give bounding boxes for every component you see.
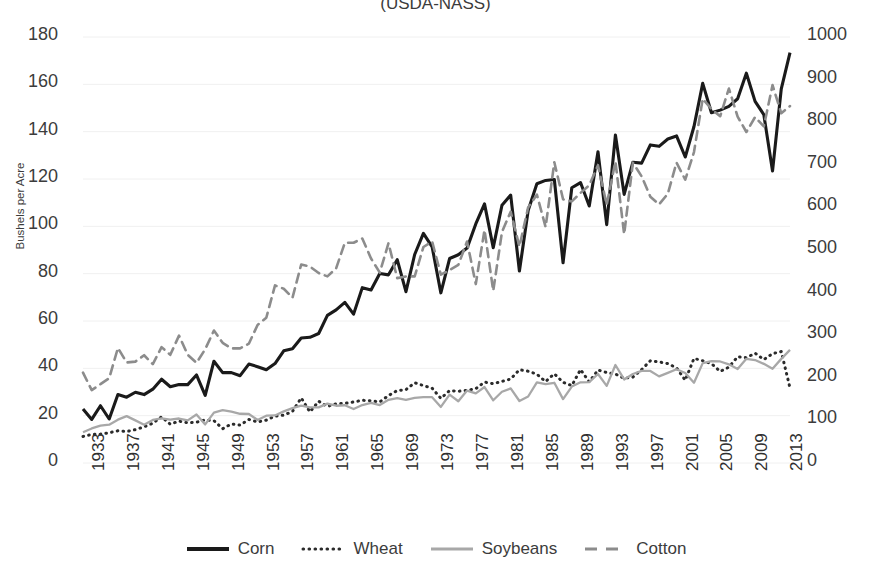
legend-label: Corn — [238, 539, 275, 559]
x-axis-tick: 1949 — [230, 433, 247, 471]
y-axis-left-tick: 60 — [0, 309, 58, 327]
x-axis-tick: 1989 — [579, 433, 596, 471]
y-axis-left-tick: 160 — [0, 72, 58, 90]
y-axis-right-tick: 400 — [807, 281, 867, 299]
x-axis-tick: 1961 — [334, 433, 351, 471]
x-axis-tick: 1933 — [90, 433, 107, 471]
x-axis-tick: 1993 — [614, 433, 631, 471]
legend-swatch-corn-icon — [185, 542, 231, 556]
y-axis-right-tick: 1000 — [807, 25, 867, 43]
series-line-soybeans — [83, 350, 790, 432]
x-axis-tick: 1973 — [439, 433, 456, 471]
x-axis-tick: 1969 — [404, 433, 421, 471]
x-axis-tick: 1941 — [160, 433, 177, 471]
y-axis-right-tick: 300 — [807, 323, 867, 341]
y-axis-left-label: Bushels per Acre — [14, 146, 26, 266]
legend-label: Wheat — [354, 539, 403, 559]
x-axis-tick: 1977 — [474, 433, 491, 471]
legend-item-soybeans[interactable]: Soybeans — [429, 539, 558, 559]
legend-swatch-wheat-icon — [301, 542, 347, 556]
y-axis-left-tick: 100 — [0, 214, 58, 232]
x-axis-tick: 2005 — [718, 433, 735, 471]
y-axis-right-tick: 200 — [807, 366, 867, 384]
x-axis-tick: 2013 — [788, 433, 805, 471]
x-axis-tick: 1957 — [299, 433, 316, 471]
chart-legend: CornWheatSoybeansCotton — [0, 539, 871, 559]
legend-label: Cotton — [636, 539, 686, 559]
x-axis-tick: 1937 — [125, 433, 142, 471]
y-axis-left-tick: 40 — [0, 356, 58, 374]
series-line-wheat — [83, 352, 790, 437]
x-axis-tick: 1965 — [369, 433, 386, 471]
y-axis-left-tick: 20 — [0, 404, 58, 422]
y-axis-left-tick: 180 — [0, 25, 58, 43]
x-axis-tick: 2001 — [684, 433, 701, 471]
x-axis-tick: 1981 — [509, 433, 526, 471]
chart-root: (USDA-NASS) Bushels per Acre 18016014012… — [0, 0, 871, 574]
y-axis-right-tick: 700 — [807, 153, 867, 171]
legend-label: Soybeans — [482, 539, 558, 559]
legend-item-corn[interactable]: Corn — [185, 539, 275, 559]
y-axis-left-tick: 120 — [0, 167, 58, 185]
chart-title: (USDA-NASS) — [0, 0, 871, 16]
legend-swatch-cotton-icon — [583, 542, 629, 556]
y-axis-right-tick: 0 — [807, 451, 867, 469]
x-axis-tick: 1953 — [265, 433, 282, 471]
y-axis-left-tick: 140 — [0, 120, 58, 138]
legend-item-wheat[interactable]: Wheat — [301, 539, 403, 559]
y-axis-right-tick: 500 — [807, 238, 867, 256]
series-line-corn — [83, 53, 790, 420]
y-axis-right-tick: 800 — [807, 110, 867, 128]
x-axis-tick: 1985 — [544, 433, 561, 471]
y-axis-right-tick: 900 — [807, 68, 867, 86]
x-axis-tick: 2009 — [753, 433, 770, 471]
legend-swatch-soybeans-icon — [429, 542, 475, 556]
y-axis-right-tick: 100 — [807, 408, 867, 426]
plot-area — [0, 0, 871, 574]
y-axis-left-tick: 80 — [0, 262, 58, 280]
y-axis-right-tick: 600 — [807, 195, 867, 213]
y-axis-left-tick: 0 — [0, 451, 58, 469]
x-axis-tick: 1997 — [649, 433, 666, 471]
x-axis-tick: 1945 — [195, 433, 212, 471]
legend-item-cotton[interactable]: Cotton — [583, 539, 686, 559]
series-line-cotton — [83, 85, 790, 390]
